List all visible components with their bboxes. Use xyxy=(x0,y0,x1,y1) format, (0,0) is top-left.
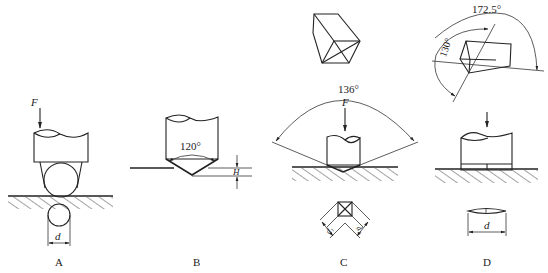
force-label: F xyxy=(30,96,38,108)
panel-label-a: A xyxy=(55,256,63,268)
panel-b: 120° H B xyxy=(130,115,252,268)
cone-tip xyxy=(166,159,218,175)
diagonal-d2-label: d₂ xyxy=(354,224,365,235)
panel-label-b: B xyxy=(193,256,200,268)
workpiece-hatch xyxy=(8,197,113,209)
angle-130-label: 130° xyxy=(437,37,453,58)
dimension-d-label: d xyxy=(484,219,490,231)
angle-172-label: 172.5° xyxy=(472,3,501,15)
workpiece-hatch xyxy=(292,168,398,181)
pyramid-indenter-body xyxy=(327,136,360,165)
panel-a: F d A xyxy=(8,96,113,268)
angle-label: 136° xyxy=(338,83,359,95)
panel-label-d: D xyxy=(483,256,491,268)
angle-label: 120° xyxy=(180,140,201,152)
rhombic-impression xyxy=(468,209,506,214)
ball-indenter xyxy=(44,163,78,197)
dimension-d-label: d xyxy=(55,230,61,242)
panel-label-c: C xyxy=(340,256,347,268)
indenter-top-curve xyxy=(34,133,60,137)
angle-arc-icon xyxy=(169,155,215,161)
workpiece-hatch xyxy=(435,170,538,183)
panel-d: 172.5° 130° d D xyxy=(432,3,544,268)
indenter-body xyxy=(34,130,88,162)
force-label: F xyxy=(341,96,349,108)
pyramid-sketch xyxy=(313,14,360,63)
hardness-indenters-diagram: F d A 120° H B xyxy=(0,0,548,273)
panel-c: 136° F d₁ d₂ C xyxy=(272,14,418,268)
rhombic-pyramid-sketch xyxy=(460,41,511,73)
depth-h-label: H xyxy=(232,167,240,177)
square-impression xyxy=(338,202,352,216)
